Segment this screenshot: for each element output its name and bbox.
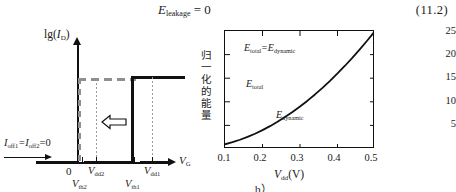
equation-row: Eleakage = 0 (11.2) [0, 2, 456, 24]
equation-lhs-symbol: E [158, 2, 166, 17]
figure-a-label-vth1: Vth1 [125, 178, 140, 190]
ann0-symbol-2: =E [261, 42, 274, 53]
ann0-sub-2: dynamic [274, 47, 295, 54]
figure-a-curve-high-vth-rise [131, 76, 134, 164]
figure-a-baseline-left [36, 161, 78, 164]
chart-xtick-label-0.1: 0.1 [212, 152, 236, 163]
x-label-subscript: G [186, 160, 191, 167]
xlabel-symbol: V [274, 168, 281, 180]
figure-a-curve-low-vth-plateau [78, 78, 136, 81]
equation-lhs-subscript: leakage [166, 9, 191, 18]
chart-ytick-label-25: 25 [434, 25, 456, 36]
ann1-sub: total [252, 83, 263, 90]
figure-a-tick-vdd2 [96, 157, 97, 162]
chart-xtick-label-0.3: 0.3 [285, 152, 309, 163]
vdd2-subscript: dd2 [94, 170, 104, 177]
chart-ytick-label-15: 15 [434, 71, 456, 82]
figure-a-y-axis-arrowhead [73, 37, 81, 45]
equation-leakage: Eleakage = 0 [158, 2, 211, 18]
chart-xtick-label-0.5: 0.5 [359, 152, 383, 163]
figure-a-leakage-annotation: Ioff1=Ioff2=0 [4, 137, 51, 149]
figure-a-leakage-arrow-shaft [4, 157, 47, 158]
figure-a-label-vdd2: Vdd2 [88, 165, 104, 177]
ioff-symbol-2: =I [18, 137, 29, 148]
figure-a-tick-vdd1 [152, 157, 153, 162]
figure-a-tick-vth1 [134, 157, 135, 162]
figure-a-curve-low-vth-rise [78, 78, 81, 164]
figure-a-label-vdd1: Vdd1 [144, 165, 160, 177]
figure-a-baseline-right [140, 161, 170, 164]
equation-number: (11.2) [416, 3, 448, 18]
chart-annotation-etotal: Etotal [246, 78, 263, 90]
figure-a-leakage-arrow-head [45, 154, 52, 160]
vdd1-subscript: dd1 [150, 170, 160, 177]
y-label-suffix: ) [66, 28, 70, 40]
figure-a-baseline-mid [84, 161, 131, 164]
ioff-subscript-1: off1 [8, 142, 19, 149]
ann0-sub-1: total [250, 47, 261, 54]
xlabel-unit: (V) [288, 168, 304, 180]
figure-a-dropline-vdd1 [152, 77, 153, 161]
x-label-variable: V [179, 154, 186, 166]
chart-y-axis-label: 归一化的能量 [198, 50, 213, 122]
figure-b-caption: b） [255, 180, 272, 192]
vth2-subscript: th2 [78, 183, 86, 190]
figure-a-origin-label: 0 [66, 165, 72, 177]
ann2-sub: dynamic [282, 114, 303, 121]
figure-a-label-vth2: Vth2 [72, 178, 87, 190]
ioff-value: =0 [40, 137, 51, 148]
figure-a-tick-vth2 [82, 157, 83, 162]
figure-page: Eleakage = 0 (11.2) lg(ID) VG [0, 0, 456, 192]
chart-annotation-edynamic: Edynamic [276, 109, 303, 121]
chart-ytick-label-10: 10 [434, 95, 456, 106]
chart-x-axis-label: Vdd(V) [274, 168, 304, 182]
figure-b: 归一化的能量 25 20 15 10 5 0.1 0.2 0.3 0.4 0.5 [196, 26, 456, 192]
y-label-prefix: lg( [44, 28, 57, 40]
figure-a-dropline-vdd2 [96, 79, 97, 161]
figure-a: lg(ID) VG Ioff1=Ioff2=0 [0, 26, 215, 192]
figure-a-x-axis-label: VG [179, 154, 191, 167]
left-block-arrow-icon [101, 114, 127, 130]
chart-xtick-label-0.4: 0.4 [322, 152, 346, 163]
chart-xtick-label-0.2: 0.2 [248, 152, 272, 163]
figure-a-y-axis-label: lg(ID) [44, 28, 70, 42]
chart-ytick-label-5: 5 [434, 118, 456, 129]
equation-relation: = 0 [191, 2, 211, 17]
ioff-subscript-2: off2 [29, 142, 40, 149]
chart-ytick-label-20: 20 [434, 48, 456, 59]
chart-annotation-etotal-equals-edynamic: Etotal=Edynamic [244, 42, 295, 54]
vth1-subscript: th1 [131, 183, 139, 190]
figure-a-curve-high-vth-plateau [131, 76, 185, 79]
